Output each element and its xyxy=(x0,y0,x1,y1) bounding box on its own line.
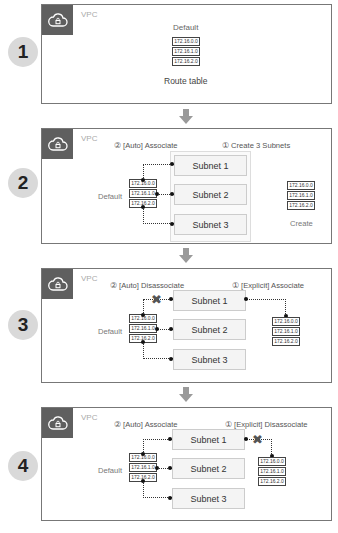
explicit-associate-header: ① [Explicit] Associate xyxy=(232,281,304,290)
auto-associate-header: ② [Auto] Associate xyxy=(114,141,178,150)
connector-dot xyxy=(168,466,172,470)
cloud-lock-icon xyxy=(42,129,73,159)
route-entry: 172.16.1.0 xyxy=(129,463,157,472)
panel-step-3: VPC ② [Auto] Disassociate ① [Explicit] A… xyxy=(41,268,332,383)
default-label: Default xyxy=(98,327,122,336)
connector-dot xyxy=(168,496,172,500)
vpc-label: VPC xyxy=(81,134,97,143)
route-entry: 172.16.1.0 xyxy=(258,467,286,476)
vpc-label: VPC xyxy=(81,10,97,19)
default-label: Default xyxy=(98,192,122,201)
subnet-3: Subnet 3 xyxy=(174,214,247,235)
subnet-1: Subnet 1 xyxy=(172,429,245,450)
auto-associate-header: ② [Auto] Associate xyxy=(114,420,178,429)
connector-subnet-1 xyxy=(143,439,172,454)
connector-dot xyxy=(155,466,159,470)
step-number-2: 2 xyxy=(8,168,38,198)
new-route-table: 172.16.0.0 172.16.1.0 172.16.2.0 xyxy=(287,181,315,211)
subnet-2: Subnet 2 xyxy=(174,184,247,205)
route-entry: 172.16.1.0 xyxy=(287,191,315,200)
step-number-1: 1 xyxy=(8,37,38,67)
connector-dot xyxy=(169,357,173,361)
subnet-2: Subnet 2 xyxy=(173,319,246,340)
default-label: Default xyxy=(173,23,198,32)
route-entry: 172.16.2.0 xyxy=(287,201,315,210)
step-number-3: 3 xyxy=(8,310,38,340)
x-mark-icon: ✖ xyxy=(252,433,263,446)
route-entry: 172.16.0.0 xyxy=(172,37,200,46)
default-label: Default xyxy=(98,466,122,475)
panel-step-4: VPC ② [Auto] Associate ① [Explicit] Disa… xyxy=(41,407,332,521)
panel-step-2: VPC ② [Auto] Associate ① Create 3 Subnet… xyxy=(41,128,332,244)
arrow-down-icon xyxy=(178,109,194,125)
arrow-down-icon xyxy=(178,248,194,264)
subnet-2: Subnet 2 xyxy=(172,458,245,479)
route-table: 172.16.0.0 172.16.1.0 172.16.2.0 xyxy=(172,37,200,67)
route-entry: 172.16.1.0 xyxy=(172,47,200,56)
vpc-label: VPC xyxy=(81,413,97,422)
connector-dot xyxy=(155,327,159,331)
auto-disassociate-header: ② [Auto] Disassociate xyxy=(110,281,184,290)
connector-dot xyxy=(169,297,173,301)
connector-dot xyxy=(141,340,145,344)
route-entry: 172.16.2.0 xyxy=(172,57,200,66)
route-entry: 172.16.2.0 xyxy=(272,337,300,346)
connector-subnet-3 xyxy=(143,481,172,498)
arrow-down-icon xyxy=(178,387,194,403)
connector-dot xyxy=(169,327,173,331)
route-table-caption: Route table xyxy=(164,76,207,86)
connector-dot xyxy=(141,479,145,483)
connector-dot xyxy=(141,313,145,317)
connector-dot xyxy=(170,222,174,226)
cloud-lock-icon xyxy=(42,5,73,35)
connector-dot xyxy=(141,178,145,182)
create-subnets-header: ① Create 3 Subnets xyxy=(222,141,290,150)
route-entry: 172.16.1.0 xyxy=(129,189,157,198)
subnet-3: Subnet 3 xyxy=(172,488,245,509)
subnet-1: Subnet 1 xyxy=(173,290,246,311)
vpc-label: VPC xyxy=(81,274,97,283)
connector-dot xyxy=(168,437,172,441)
connector-dot xyxy=(170,192,174,196)
connector-dot xyxy=(155,192,159,196)
explicit-disassociate-header: ① [Explicit] Disassociate xyxy=(225,420,308,429)
connector-subnet-1 xyxy=(143,164,174,180)
connector-subnet-3 xyxy=(143,342,173,359)
connector-dot xyxy=(170,162,174,166)
connector-dot xyxy=(141,452,145,456)
route-entry: 172.16.2.0 xyxy=(258,477,286,486)
route-entry: 172.16.0.0 xyxy=(258,457,286,466)
connector-subnet-3 xyxy=(143,207,174,224)
cloud-lock-icon xyxy=(42,269,73,299)
route-entry: 172.16.0.0 xyxy=(272,317,300,326)
custom-route-table: 172.16.0.0 172.16.1.0 172.16.2.0 xyxy=(258,457,286,487)
step-number-4: 4 xyxy=(8,451,38,481)
x-mark-icon: ✖ xyxy=(151,293,162,306)
create-label: Create xyxy=(290,219,313,228)
connector-explicit xyxy=(246,299,286,316)
custom-route-table: 172.16.0.0 172.16.1.0 172.16.2.0 xyxy=(272,317,300,347)
subnet-3: Subnet 3 xyxy=(173,349,246,370)
route-entry: 172.16.1.0 xyxy=(129,324,157,333)
connector-dot xyxy=(141,205,145,209)
route-entry: 172.16.0.0 xyxy=(287,181,315,190)
connector-dot xyxy=(244,437,248,441)
subnet-1: Subnet 1 xyxy=(174,155,247,176)
cloud-lock-icon xyxy=(42,408,73,438)
panel-step-1: VPC Default 172.16.0.0 172.16.1.0 172.16… xyxy=(41,4,332,104)
connector-dot xyxy=(244,297,248,301)
route-entry: 172.16.1.0 xyxy=(272,327,300,336)
